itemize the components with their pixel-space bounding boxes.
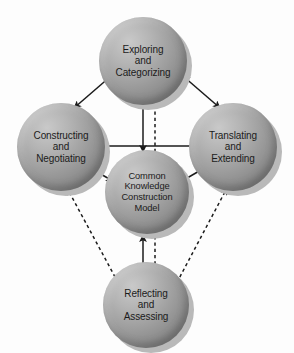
node-constructing-and-negotiating[interactable]: Constructing and Negotiating xyxy=(17,103,105,191)
node-exploring-and-categorizing[interactable]: Exploring and Categorizing xyxy=(99,17,187,105)
node-translating-and-extending[interactable]: Translating and Extending xyxy=(189,103,277,191)
node-label: Translating and Extending xyxy=(206,130,260,165)
node-common-knowledge-construction-model[interactable]: Common Knowledge Construction Model xyxy=(105,150,189,234)
node-label: Reflecting and Assessing xyxy=(121,288,172,323)
node-label: Constructing and Negotiating xyxy=(31,130,92,165)
diagram-canvas: Exploring and Categorizing Constructing … xyxy=(0,0,294,353)
node-label: Exploring and Categorizing xyxy=(113,44,174,79)
node-reflecting-and-assessing[interactable]: Reflecting and Assessing xyxy=(103,262,189,348)
node-label: Common Knowledge Construction Model xyxy=(119,171,176,213)
